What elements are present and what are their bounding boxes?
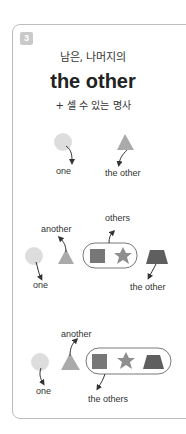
label-others: others: [105, 213, 130, 223]
circle-shape: [31, 353, 49, 371]
label-one: one: [56, 166, 71, 176]
label-the-others: the others: [88, 394, 128, 404]
diagram-several-items: [25, 232, 168, 278]
star-shape: [114, 247, 132, 264]
label-another: another: [61, 329, 92, 339]
curved-arrow-icon: [70, 340, 76, 356]
triangle-shape: [117, 134, 134, 150]
curved-arrow-icon: [119, 150, 127, 164]
label-one: one: [36, 386, 51, 396]
diagram-group-remaining: [31, 340, 171, 388]
label-one: one: [33, 280, 48, 290]
square-shape: [92, 354, 107, 369]
diagram-two-items: [54, 133, 134, 164]
square-shape: [90, 249, 105, 263]
curved-arrow-icon: [109, 232, 113, 243]
trapezoid-shape: [143, 355, 164, 369]
circle-shape: [54, 133, 72, 151]
label-another: another: [41, 224, 72, 234]
trapezoid-shape: [146, 250, 168, 264]
curved-arrow-icon: [60, 238, 66, 252]
shapes-diagram: [0, 0, 186, 434]
curved-arrow-icon: [36, 262, 41, 278]
curved-arrow-icon: [149, 264, 156, 277]
star-shape: [117, 352, 135, 369]
curved-arrow-icon: [98, 374, 105, 388]
label-the-other: the other: [105, 168, 141, 178]
label-the-other: the other: [130, 282, 166, 292]
circle-shape: [25, 247, 43, 265]
